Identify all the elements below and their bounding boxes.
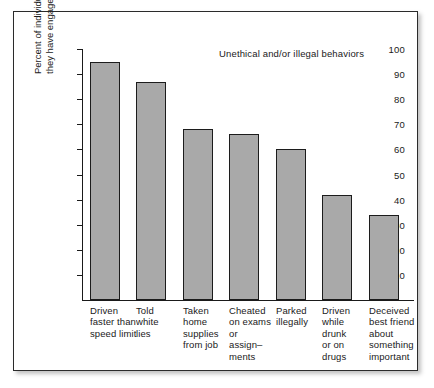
y-axis-line	[82, 49, 83, 300]
category-label-line: Driven	[90, 305, 137, 316]
category-label-line: drunk	[322, 328, 350, 339]
bar	[369, 215, 399, 300]
y-axis-tick-label: 50	[394, 169, 405, 180]
category-label-line: while	[322, 316, 350, 327]
y-axis-tick	[77, 200, 82, 201]
category-label-line: illegally	[276, 316, 308, 327]
category-label: Deceivedbest friendaboutsomethingimporta…	[369, 305, 414, 362]
y-axis-tick	[77, 250, 82, 251]
y-axis-tick	[77, 99, 82, 100]
category-label-line: or	[229, 328, 271, 339]
category-label-line: about	[369, 328, 414, 339]
y-axis-tick	[77, 74, 82, 75]
y-axis-tick-label: 80	[394, 94, 405, 105]
y-axis-label-line-2: they have engaged in unethical behaviors	[44, 0, 56, 74]
bar	[322, 195, 352, 300]
y-axis-tick	[77, 275, 82, 276]
figure-frame: Unethical and/or illegal behaviors Perce…	[13, 11, 418, 371]
category-label-line: supplies	[183, 328, 219, 339]
category-label-line: Taken	[183, 305, 219, 316]
category-label-line: ments	[229, 351, 271, 362]
category-label-line: home	[183, 316, 219, 327]
category-label-line: assign–	[229, 339, 271, 350]
category-label-line: lies	[136, 328, 159, 339]
bar	[136, 82, 166, 300]
y-axis-tick	[77, 49, 82, 50]
category-label: Takenhomesuppliesfrom job	[183, 305, 219, 351]
category-label: Cheatedon examsorassign–ments	[229, 305, 271, 362]
category-label-line: on exams	[229, 316, 271, 327]
category-label-line: something	[369, 339, 414, 350]
y-axis-label: Percent of individuals admitting they ha…	[32, 0, 58, 74]
category-label: Toldwhitelies	[136, 305, 159, 339]
bar	[276, 149, 306, 300]
category-label-line: Told	[136, 305, 159, 316]
category-label-line: best friend	[369, 316, 414, 327]
category-label-line: Parked	[276, 305, 308, 316]
category-label-line: or on	[322, 339, 350, 350]
y-axis-tick	[77, 124, 82, 125]
bar	[229, 134, 259, 300]
figure-root: Unethical and/or illegal behaviors Perce…	[0, 0, 434, 388]
y-axis-tick	[77, 149, 82, 150]
category-label-line: faster than	[90, 316, 137, 327]
category-label-line: speed limit	[90, 328, 137, 339]
y-axis-tick-label: 90	[394, 69, 405, 80]
bar	[90, 62, 120, 300]
y-axis-tick	[77, 175, 82, 176]
category-label-line: drugs	[322, 351, 350, 362]
category-label-group: Drivenfaster thanspeed limitToldwhitelie…	[82, 305, 422, 383]
y-axis-tick-label: 70	[394, 119, 405, 130]
y-axis-tick	[77, 225, 82, 226]
y-axis-tick-label: 40	[394, 194, 405, 205]
category-label-line: important	[369, 351, 414, 362]
x-axis-line	[82, 300, 414, 301]
y-axis-tick-label: 100	[389, 44, 405, 55]
bar	[183, 129, 213, 300]
category-label-line: Driven	[322, 305, 350, 316]
y-axis-label-line-1: Percent of individuals admitting	[32, 0, 44, 74]
category-label-line: white	[136, 316, 159, 327]
y-axis-tick-label: 60	[394, 144, 405, 155]
category-label: Drivenfaster thanspeed limit	[90, 305, 137, 339]
category-label-line: Deceived	[369, 305, 414, 316]
category-label: Parkedillegally	[276, 305, 308, 328]
category-label-line: Cheated	[229, 305, 271, 316]
category-label: Drivenwhiledrunkor ondrugs	[322, 305, 350, 362]
category-label-line: from job	[183, 339, 219, 350]
plot-area: 102030405060708090100	[82, 42, 414, 300]
